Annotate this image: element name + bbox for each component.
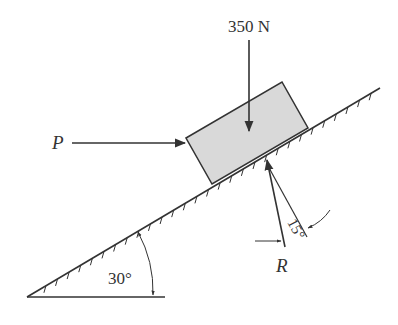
block xyxy=(186,82,308,184)
angle-indicator-right xyxy=(308,210,330,228)
reaction-angle-label: 15° xyxy=(284,216,308,242)
reaction-arrow xyxy=(267,160,285,247)
weight-label: 350 N xyxy=(228,17,270,36)
incline-diagram: 30° 350 N P 15° R xyxy=(0,0,398,325)
angle-label-30: 30° xyxy=(108,269,132,288)
reaction-label: R xyxy=(275,255,288,276)
angle-arc-30 xyxy=(138,232,153,295)
push-label: P xyxy=(51,132,64,153)
incline-surface xyxy=(27,88,380,297)
